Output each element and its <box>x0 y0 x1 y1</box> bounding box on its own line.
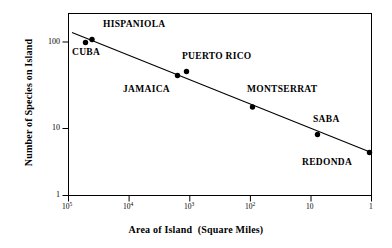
point-label-puerto-rico: PUERTO RICO <box>182 52 252 62</box>
x-axis-ticks <box>69 196 372 202</box>
x-tick-exp-3: 2 <box>253 201 256 207</box>
y-tick-label-0: 100 <box>30 38 60 46</box>
data-point-cuba <box>83 40 88 45</box>
data-point-puerto-rico <box>184 69 189 74</box>
y-tick-label-2: 1 <box>30 191 60 199</box>
point-label-redonda: REDONDA <box>302 158 352 168</box>
point-label-saba: SABA <box>313 115 340 125</box>
data-point-saba <box>315 132 320 137</box>
point-label-hispaniola: HISPANIOLA <box>103 20 165 30</box>
data-point-montserrat <box>250 104 255 109</box>
data-point-jamaica <box>175 73 180 78</box>
x-tick-exp-1: 4 <box>131 201 134 207</box>
x-tick-exp-2: 3 <box>192 201 195 207</box>
y-tick-label-1: 10 <box>30 124 60 132</box>
x-tick-label-2: 103 <box>184 203 194 211</box>
point-label-cuba: CUBA <box>72 48 100 58</box>
x-tick-label-5: 1 <box>369 203 373 211</box>
x-tick-label-0: 105 <box>62 203 72 211</box>
y-axis-title: Number of Species on Island <box>23 13 34 193</box>
plot-frame <box>69 14 372 196</box>
data-point-hispaniola <box>89 37 94 42</box>
data-point-redonda <box>367 150 372 155</box>
x-tick-label-3: 102 <box>245 203 255 211</box>
point-label-jamaica: JAMAICA <box>123 85 170 95</box>
x-tick-label-1: 104 <box>123 203 133 211</box>
x-axis-title: Area of Island (Square Miles) <box>0 224 392 235</box>
point-label-montserrat: MONTSERRAT <box>247 85 317 95</box>
species-area-chart: 105 104 103 102 10 1 100 10 1 HISPANIOLA… <box>0 0 392 248</box>
x-tick-exp-0: 5 <box>70 201 73 207</box>
x-tick-label-4: 10 <box>306 203 314 211</box>
y-axis-ticks <box>63 42 69 196</box>
